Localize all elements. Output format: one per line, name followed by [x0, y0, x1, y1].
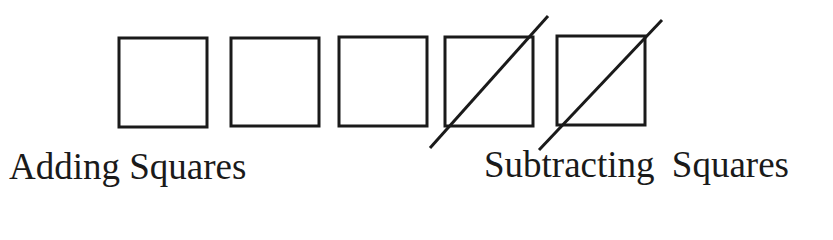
square-1: [119, 38, 207, 127]
subtracting-squares-label: Subtracting Squares: [484, 146, 789, 183]
adding-squares-label: Adding Squares: [9, 148, 246, 185]
square-3: [339, 37, 427, 126]
square-5-crossed: [557, 36, 645, 125]
square-2: [231, 38, 319, 126]
